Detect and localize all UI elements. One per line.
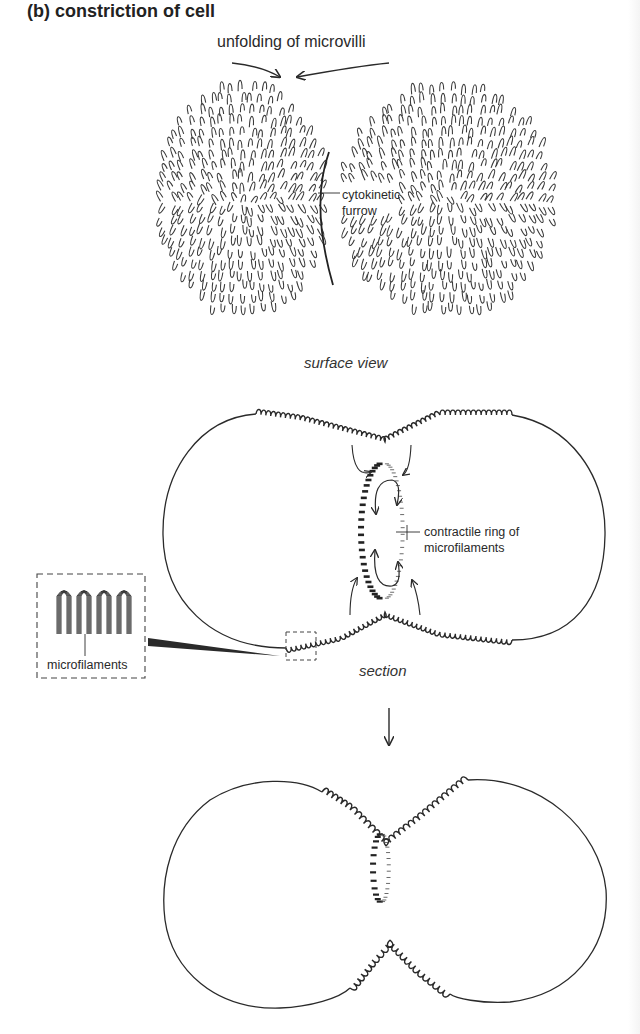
contractile-ring-label: contractile ring of microfilaments bbox=[424, 524, 519, 556]
cytokinesis-diagram bbox=[0, 0, 640, 1034]
figure-heading: (b) constriction of cell bbox=[27, 2, 215, 22]
furrow-label-line2: furrow bbox=[342, 203, 400, 219]
ring-label-line2: microfilaments bbox=[424, 540, 519, 556]
zoom-connector bbox=[148, 638, 280, 656]
cytokinetic-furrow-label: cytokinetic furrow bbox=[342, 187, 400, 219]
section-caption: section bbox=[359, 663, 407, 680]
later-stage-cell bbox=[164, 777, 606, 1008]
arrow-right-icon bbox=[297, 63, 389, 77]
furrow-label-line1: cytokinetic bbox=[342, 187, 400, 203]
cytokinetic-furrow-line bbox=[320, 152, 333, 285]
unfolding-microvilli-label: unfolding of microvilli bbox=[217, 33, 366, 51]
arrow-left-icon bbox=[232, 63, 280, 77]
microfilaments-label: microfilaments bbox=[47, 659, 128, 673]
ring-label-line1: contractile ring of bbox=[424, 524, 519, 540]
section-cell bbox=[37, 409, 605, 745]
surface-view-caption: surface view bbox=[304, 355, 387, 372]
